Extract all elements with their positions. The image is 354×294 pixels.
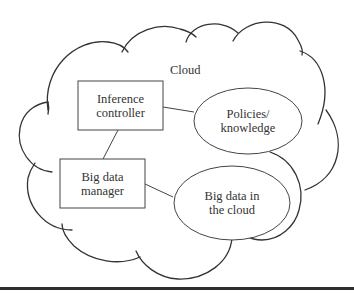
edge-controller-policies [163,107,194,112]
inference-controller-line-2: controller [78,106,163,120]
policies-knowledge-label: Policies/ knowledge [194,107,302,135]
cloud-architecture-diagram [0,0,354,294]
big-data-manager-label: Big data manager [60,170,145,198]
edge-controller-manager [103,130,118,159]
big-data-in-cloud-line-1: Big data in [174,189,290,203]
cloud-outline [19,22,338,279]
cloud-label-text: Cloud [170,63,200,77]
inference-controller-line-1: Inference [78,92,163,106]
big-data-manager-line-1: Big data [60,170,145,184]
edge-manager-bigdata [145,184,173,197]
inference-controller-label: Inference controller [78,92,163,120]
big-data-in-cloud-label: Big data in the cloud [174,189,290,217]
big-data-manager-line-2: manager [60,184,145,198]
cloud-label: Cloud [170,63,200,77]
policies-knowledge-line-2: knowledge [194,121,302,135]
big-data-in-cloud-line-2: the cloud [174,203,290,217]
figure-bottom-rule [0,287,354,290]
policies-knowledge-line-1: Policies/ [194,107,302,121]
